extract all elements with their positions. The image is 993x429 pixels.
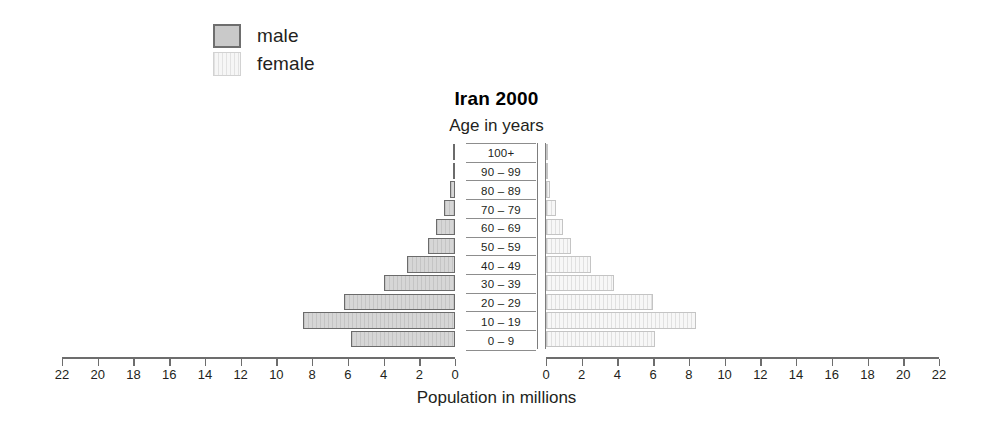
bar-female	[546, 275, 614, 291]
x-axis-tick-label: 12	[233, 367, 247, 382]
x-axis-tick	[832, 359, 833, 366]
bar-female	[546, 312, 696, 328]
x-axis-tick-label: 6	[650, 367, 657, 382]
x-axis-tick-label: 8	[308, 367, 315, 382]
center-axis-female	[545, 143, 547, 349]
x-axis-tick-label: 2	[416, 367, 423, 382]
center-axis-male	[537, 143, 539, 349]
bar-male	[407, 256, 455, 272]
x-axis-tick-label: 20	[896, 367, 910, 382]
x-axis-tick-label: 4	[380, 367, 387, 382]
bar-male	[453, 144, 455, 160]
bar-male	[453, 163, 455, 179]
chart-subtitle: Age in years	[0, 116, 993, 136]
bar-female	[546, 181, 550, 197]
chart-title: Iran 2000	[0, 88, 993, 110]
age-band-label: 20 – 29	[466, 293, 536, 313]
x-axis-tick-label: 0	[542, 367, 549, 382]
x-axis-tick-label: 4	[614, 367, 621, 382]
x-axis-tick	[689, 359, 690, 366]
x-axis-tick	[546, 359, 547, 366]
x-axis-tick-label: 10	[269, 367, 283, 382]
x-axis-tick-label: 14	[198, 367, 212, 382]
x-axis-tick	[868, 359, 869, 366]
age-band-label: 90 – 99	[466, 162, 536, 182]
x-axis-line-right	[546, 357, 939, 359]
bar-male	[344, 294, 455, 310]
x-axis-tick-label: 20	[90, 367, 104, 382]
x-axis-tick	[903, 359, 904, 366]
bar-male	[384, 275, 455, 291]
x-axis-tick-label: 22	[932, 367, 946, 382]
legend-item-male: male	[213, 22, 315, 50]
pyramid-row: 20 – 29	[0, 293, 993, 312]
x-axis-tick	[98, 359, 99, 366]
bar-male	[303, 312, 455, 328]
x-axis-title: Population in millions	[0, 388, 993, 408]
x-axis-tick	[653, 359, 654, 366]
x-axis-tick-label: 16	[825, 367, 839, 382]
x-axis-tick	[760, 359, 761, 366]
bar-male	[450, 181, 455, 197]
bar-male	[444, 200, 455, 216]
bar-male	[436, 219, 455, 235]
x-axis-tick	[276, 359, 277, 366]
bar-female	[546, 200, 556, 216]
age-band-label: 60 – 69	[466, 218, 536, 238]
x-axis-tick	[455, 359, 456, 366]
x-axis-tick	[169, 359, 170, 366]
x-axis-tick	[419, 359, 420, 366]
pyramid-row: 90 – 99	[0, 162, 993, 181]
x-axis-tick	[796, 359, 797, 366]
x-axis-line-left	[62, 357, 455, 359]
x-axis-tick-label: 18	[860, 367, 874, 382]
age-band-label: 70 – 79	[466, 199, 536, 219]
legend-swatch-female-icon	[213, 52, 241, 76]
age-band-label: 50 – 59	[466, 237, 536, 257]
x-axis-tick-label: 12	[753, 367, 767, 382]
population-pyramid-plot: 100+90 – 9980 – 8970 – 7960 – 6950 – 594…	[0, 143, 993, 349]
x-axis-tick-label: 8	[685, 367, 692, 382]
x-axis-tick	[205, 359, 206, 366]
x-axis-tick	[617, 359, 618, 366]
bar-female	[546, 238, 571, 254]
pyramid-row: 0 – 9	[0, 330, 993, 349]
x-axis: 22201816141210864200246810121416182022	[0, 357, 993, 359]
age-band-label: 30 – 39	[466, 274, 536, 294]
x-axis-tick	[241, 359, 242, 366]
pyramid-row: 70 – 79	[0, 199, 993, 218]
legend-label-female: female	[257, 53, 315, 75]
age-band-label: 40 – 49	[466, 255, 536, 275]
x-axis-tick-label: 10	[717, 367, 731, 382]
x-axis-tick-label: 0	[451, 367, 458, 382]
x-axis-tick-label: 18	[126, 367, 140, 382]
age-band-label: 100+	[466, 143, 536, 163]
x-axis-tick	[384, 359, 385, 366]
bar-female	[546, 219, 563, 235]
bar-female	[546, 331, 655, 347]
pyramid-row: 80 – 89	[0, 180, 993, 199]
age-band-label: 10 – 19	[466, 311, 536, 331]
pyramid-row: 40 – 49	[0, 255, 993, 274]
legend-swatch-male-icon	[213, 24, 241, 48]
age-band-label: 80 – 89	[466, 180, 536, 200]
x-axis-tick-label: 22	[55, 367, 69, 382]
bar-female	[546, 144, 548, 160]
bar-male	[351, 331, 455, 347]
pyramid-row: 30 – 39	[0, 274, 993, 293]
x-axis-tick	[348, 359, 349, 366]
x-axis-tick-label: 2	[578, 367, 585, 382]
pyramid-row: 100+	[0, 143, 993, 162]
x-axis-tick	[725, 359, 726, 366]
x-axis-tick	[939, 359, 940, 366]
legend-label-male: male	[257, 25, 299, 47]
x-axis-tick	[312, 359, 313, 366]
pyramid-row: 60 – 69	[0, 218, 993, 237]
pyramid-row: 10 – 19	[0, 311, 993, 330]
bar-female	[546, 163, 548, 179]
bar-female	[546, 256, 591, 272]
x-axis-tick	[133, 359, 134, 366]
bar-male	[428, 238, 455, 254]
x-axis-tick-label: 6	[344, 367, 351, 382]
legend-item-female: female	[213, 50, 315, 78]
